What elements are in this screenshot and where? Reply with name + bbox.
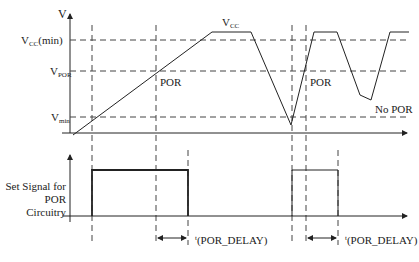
por-pulse-1 [92, 170, 188, 216]
por-pulse-2 [292, 170, 338, 216]
vcc-curve [73, 32, 409, 135]
vcc-min-label: VCC(min) [21, 34, 63, 50]
por-delay-label-2: t(POR_DELAY) [345, 232, 417, 246]
por-annotation-2: POR [310, 76, 331, 88]
event-lines [92, 25, 338, 245]
vcc-curve-label: VCC [222, 16, 239, 32]
set-signal-label: Set Signal for POR Circuitry [4, 180, 66, 219]
vmin-label: Vmin [51, 111, 70, 127]
por-delay-label-1: t(POR_DELAY) [195, 232, 267, 246]
no-por-annotation: No POR [375, 103, 413, 115]
vpor-label: VPOR [50, 65, 72, 81]
bottom-axes [62, 155, 407, 222]
por-annotation-1: POR [160, 76, 181, 88]
y-axis-label: V [58, 8, 67, 20]
level-lines [70, 40, 408, 117]
